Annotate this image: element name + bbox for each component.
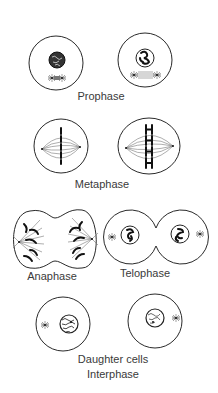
label-telophase: Telophase	[120, 267, 170, 279]
centrosome-icon	[48, 74, 66, 82]
daughter-cell-right	[128, 294, 182, 348]
interphase-nucleus	[60, 315, 78, 333]
centrosome-icon	[41, 321, 49, 329]
telophase-nucleus-left	[121, 226, 139, 244]
label-anaphase: Anaphase	[27, 270, 77, 282]
label-interphase: Interphase	[87, 368, 139, 380]
nucleus-condensing	[49, 52, 65, 68]
spindle-left	[13, 220, 44, 261]
label-metaphase: Metaphase	[75, 178, 129, 190]
aster-icon	[108, 233, 116, 241]
mitosis-diagram	[0, 0, 218, 393]
prophase-cell-early	[29, 36, 83, 90]
chromosome-pairs	[146, 125, 152, 168]
aster-icon	[196, 230, 204, 238]
metaphase-cell-early	[34, 119, 88, 173]
telophase-nucleus-right	[171, 225, 189, 243]
label-prophase: Prophase	[77, 90, 124, 102]
centrosome-icon	[172, 314, 180, 322]
anaphase-cell	[13, 210, 98, 269]
telophase-cell	[104, 210, 209, 264]
interphase-nucleus	[146, 309, 164, 327]
aster-icon	[130, 71, 161, 79]
prophase-cell-late	[118, 33, 172, 87]
label-daughter-cells: Daughter cells	[78, 353, 148, 365]
metaphase-cell-late	[118, 118, 180, 174]
daughter-cell-left	[36, 297, 90, 351]
